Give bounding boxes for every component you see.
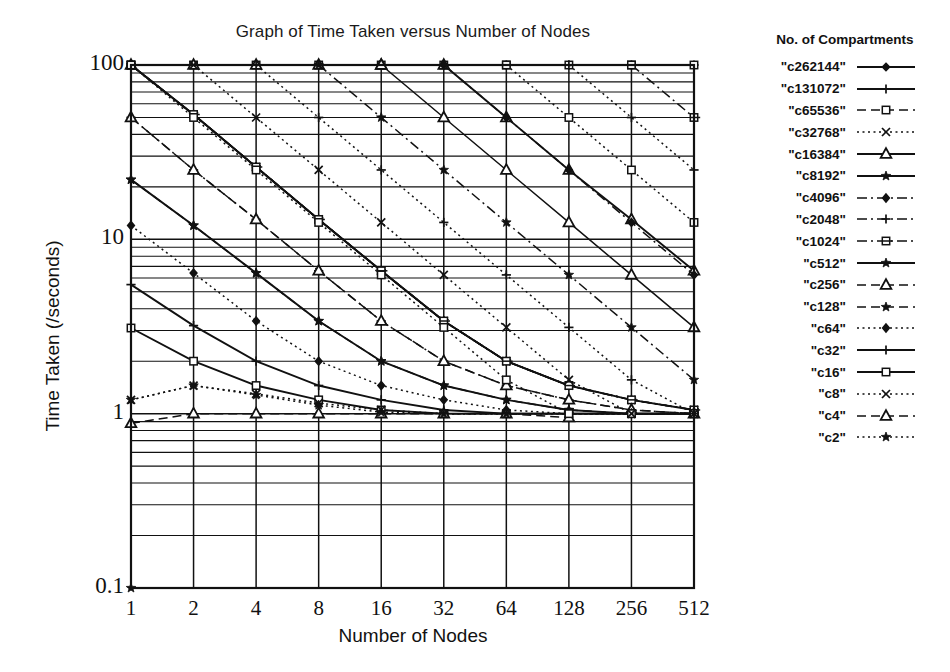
legend-sample-triangle-open-icon — [853, 406, 919, 426]
legend-item-label: "c512" — [742, 256, 853, 271]
series-line — [131, 226, 694, 414]
series-line — [506, 65, 694, 222]
legend-item-label: "c256" — [742, 277, 853, 292]
series-line — [131, 65, 694, 410]
legend-item-label: "c8192" — [742, 168, 853, 183]
legend-item[interactable]: "c65536" — [742, 100, 948, 122]
legend-item-label: "c32768" — [742, 125, 853, 140]
legend-sample-plus-icon — [853, 340, 919, 360]
series-line — [131, 65, 694, 410]
legend-item-label: "c128" — [742, 299, 853, 314]
legend-item-label: "c8" — [742, 386, 853, 401]
legend-sample-star-icon — [853, 166, 919, 186]
series-line — [131, 65, 694, 410]
legend-item-label: "c4" — [742, 408, 853, 423]
legend-item[interactable]: "c4096" — [742, 187, 948, 209]
legend-item-label: "c2048" — [742, 212, 853, 227]
legend-item-label: "c16" — [742, 365, 853, 380]
legend-item[interactable]: "c32" — [742, 339, 948, 361]
legend-sample-plus-icon — [853, 79, 919, 99]
legend-item[interactable]: "c8" — [742, 383, 948, 405]
legend-item[interactable]: "c16384" — [742, 143, 948, 165]
series-line — [381, 65, 694, 327]
legend-item[interactable]: "c262144" — [742, 56, 948, 78]
legend-sample-star-icon — [853, 253, 919, 273]
legend: No. of Compartments "c262144""c131072""c… — [742, 32, 948, 448]
legend-item-label: "c16384" — [742, 147, 853, 162]
legend-item[interactable]: "c128" — [742, 296, 948, 318]
legend-item[interactable]: "c256" — [742, 274, 948, 296]
legend-item[interactable]: "c512" — [742, 252, 948, 274]
legend-sample-square-open-icon — [853, 362, 919, 382]
y-axis-title: Time Taken (/seconds) — [42, 186, 64, 486]
legend-title: No. of Compartments — [742, 32, 948, 47]
legend-item[interactable]: "c2048" — [742, 209, 948, 231]
legend-sample-plus-icon — [853, 209, 919, 229]
legend-item[interactable]: "c16" — [742, 361, 948, 383]
legend-item[interactable]: "c1024" — [742, 230, 948, 252]
legend-sample-diamond-icon — [853, 57, 919, 77]
legend-sample-square-bar-icon — [853, 231, 919, 251]
legend-item-label: "c65536" — [742, 103, 853, 118]
series-line — [131, 65, 694, 410]
legend-item[interactable]: "c32768" — [742, 121, 948, 143]
legend-sample-square-open-icon — [853, 100, 919, 120]
legend-sample-star-icon — [853, 427, 919, 447]
series-line — [131, 328, 694, 414]
legend-sample-x-icon — [853, 122, 919, 142]
legend-sample-diamond-filled-icon — [853, 188, 919, 208]
legend-sample-star-icon — [853, 297, 919, 317]
legend-item-label: "c1024" — [742, 234, 853, 249]
y-tick-label: 100 — [40, 50, 124, 76]
series-line — [131, 386, 694, 414]
legend-item[interactable]: "c2" — [742, 427, 948, 449]
legend-items: "c262144""c131072""c65536""c32768""c1638… — [742, 56, 948, 448]
legend-item-label: "c32" — [742, 343, 853, 358]
data-curves — [126, 59, 701, 592]
chart-page: Graph of Time Taken versus Number of Nod… — [0, 0, 950, 672]
legend-sample-x-icon — [853, 384, 919, 404]
legend-item[interactable]: "c64" — [742, 318, 948, 340]
legend-item-label: "c64" — [742, 321, 853, 336]
legend-sample-triangle-open-icon — [853, 144, 919, 164]
x-tick-label: 512 — [654, 596, 734, 621]
legend-item-label: "c2" — [742, 430, 853, 445]
legend-sample-triangle-open-icon — [853, 275, 919, 295]
legend-item[interactable]: "c131072" — [742, 78, 948, 100]
legend-item-label: "c131072" — [742, 81, 853, 96]
x-axis-title: Number of Nodes — [131, 625, 695, 647]
legend-item-label: "c262144" — [742, 59, 853, 74]
legend-sample-diamond-filled-icon — [853, 318, 919, 338]
legend-item[interactable]: "c8192" — [742, 165, 948, 187]
legend-item-label: "c4096" — [742, 190, 853, 205]
series-line — [131, 386, 694, 414]
legend-item[interactable]: "c4" — [742, 405, 948, 427]
